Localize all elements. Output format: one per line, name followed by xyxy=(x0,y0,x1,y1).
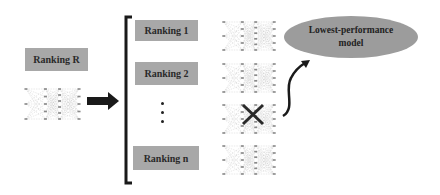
cross-icon xyxy=(243,105,263,124)
result-label-line2: model xyxy=(309,37,393,50)
lowest-performance-model-ellipse: Lowest-performance model xyxy=(284,16,418,58)
result-label-line1: Lowest-performance xyxy=(309,24,393,37)
